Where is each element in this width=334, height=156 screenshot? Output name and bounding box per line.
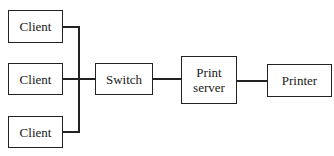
switch-node-label: Switch <box>106 72 142 87</box>
client-node-3: Client <box>8 116 63 148</box>
switch-to-print-server-connector <box>152 78 182 80</box>
print-server-to-printer-connector <box>236 80 268 82</box>
print-server-node: Print server <box>181 56 237 104</box>
printer-node: Printer <box>267 64 332 97</box>
print-server-label-line-2: server <box>193 80 225 95</box>
client-node-2-label: Client <box>20 72 52 87</box>
client-node-1: Client <box>8 10 63 43</box>
client-bus-line <box>78 26 80 132</box>
client-node-3-label: Client <box>20 125 52 140</box>
client-node-2: Client <box>8 63 63 95</box>
client-node-1-label: Client <box>20 19 52 34</box>
printer-node-label: Printer <box>282 73 317 88</box>
switch-node: Switch <box>95 63 153 95</box>
print-server-label-line-1: Print <box>196 65 221 80</box>
